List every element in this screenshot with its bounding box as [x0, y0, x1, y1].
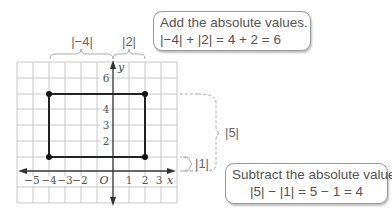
x-tick-label: −2: [72, 174, 87, 186]
brace-left-icon: [50, 49, 113, 59]
y-tick-label: 4: [103, 103, 110, 115]
brace-right-icon: [113, 49, 145, 59]
callout-subtract-title: Subtract the absolute values.: [232, 166, 381, 183]
vertex-point: [142, 91, 148, 97]
x-tick-label: 3: [156, 174, 163, 186]
callout-add-absolute-values: Add the absolute values. |−4| + |2| = 4 …: [153, 11, 311, 51]
x-tick-label: 2: [142, 174, 149, 186]
x-tick-label: −5: [24, 174, 39, 186]
brace-label-5: |5|: [225, 125, 239, 140]
x-tick-labels: −5 −4 −3 −2 O 1 2 3 x: [18, 174, 174, 187]
vertex-point: [142, 154, 148, 160]
brace-short-icon: [183, 157, 192, 171]
brace-label-1: |1|: [195, 156, 209, 171]
y-tick-label: 2: [103, 135, 110, 147]
brace-label-2: |2|: [122, 34, 136, 49]
vertex-point: [46, 91, 52, 97]
vertex-point: [46, 154, 52, 160]
y-tick-label: 3: [103, 119, 110, 131]
x-axis-label: x: [167, 174, 174, 187]
callout-subtract-absolute-values: Subtract the absolute values. |5| − |1| …: [225, 163, 388, 204]
callout-add-equation: |−4| + |2| = 4 + 2 = 6: [160, 31, 304, 48]
x-tick-label: −4: [41, 174, 57, 186]
top-braces: [50, 49, 145, 59]
callout-subtract-equation: |5| − |1| = 5 − 1 = 4: [232, 183, 381, 200]
y-axis-up-arrow-icon: [110, 60, 116, 69]
x-tick-label: 1: [126, 174, 133, 186]
y-axis-label: y: [117, 61, 125, 74]
x-tick-label: −3: [57, 174, 72, 186]
y-tick-label: 6: [103, 72, 110, 84]
y-axis: [110, 60, 116, 206]
y-axis-down-arrow-icon: [110, 197, 116, 206]
brace-label-neg4: |−4|: [71, 34, 93, 49]
callout-add-title: Add the absolute values.: [160, 14, 304, 31]
origin-label: O: [99, 174, 108, 187]
